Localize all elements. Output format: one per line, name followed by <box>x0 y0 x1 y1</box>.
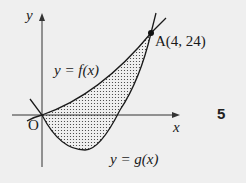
origin-label: O <box>28 118 39 133</box>
x-axis-label: x <box>173 120 180 135</box>
g-curve-label: y = g(x) <box>110 152 158 167</box>
y-axis-label: y <box>26 8 33 23</box>
point-a-label: A(4, 24) <box>155 34 206 49</box>
f-curve-label: y = f(x) <box>54 63 99 78</box>
diagram: y x O y = f(x) y = g(x) A(4, 24) 5 <box>0 0 246 183</box>
point-a-marker <box>148 30 154 36</box>
y-axis-arrow-icon <box>39 13 45 21</box>
x-axis-arrow-icon <box>172 112 180 118</box>
shaded-region <box>42 33 151 150</box>
question-number: 5 <box>217 106 225 121</box>
